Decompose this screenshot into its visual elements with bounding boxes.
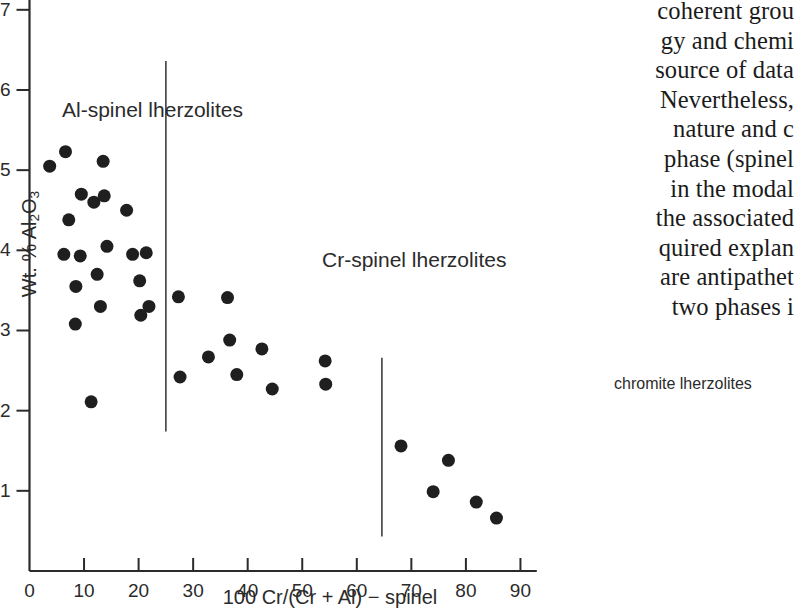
data-point <box>43 160 56 173</box>
data-point <box>91 268 104 281</box>
body-text-line: the associated <box>656 203 794 233</box>
data-point <box>266 383 279 396</box>
body-text-line: quired explan <box>659 233 794 263</box>
y-tick-label: 5 <box>0 160 11 179</box>
body-text-line: phase (spinel <box>664 144 794 174</box>
x-axis-title: 100 Cr/(Cr + Al) − spinel <box>0 586 660 609</box>
body-text-line: coherent grou <box>657 0 794 26</box>
data-point <box>427 485 440 498</box>
body-text-line: gy and chemi <box>661 26 794 56</box>
data-point <box>62 213 75 226</box>
data-point <box>94 300 107 313</box>
y-axis-title: Wt. % Al2O3 <box>18 159 42 329</box>
data-point <box>59 145 72 158</box>
data-point <box>230 368 243 381</box>
data-point <box>75 188 88 201</box>
body-text-line: are antipathet <box>660 262 794 292</box>
data-point <box>69 318 82 331</box>
y-tick-label: 1 <box>0 481 11 500</box>
data-point <box>202 350 215 363</box>
y-tick-label: 6 <box>0 80 11 99</box>
group-label-al-spinel: Al-spinel lherzolites <box>62 99 243 120</box>
data-point <box>140 246 153 259</box>
data-point <box>442 454 455 467</box>
data-point <box>98 189 111 202</box>
y-tick-label: 2 <box>0 401 11 420</box>
data-point <box>255 342 268 355</box>
group-label-chromite: chromite lherzolites <box>614 376 752 392</box>
data-point <box>133 274 146 287</box>
body-text-column: coherent grougy and chemisource of dataN… <box>432 0 794 336</box>
data-point <box>85 395 98 408</box>
data-point <box>74 249 87 262</box>
body-text-line: Nevertheless, <box>660 85 794 115</box>
data-point <box>69 280 82 293</box>
data-point <box>97 155 110 168</box>
data-point <box>100 240 113 253</box>
data-point <box>223 334 236 347</box>
body-text-line: two phases i <box>672 292 794 322</box>
data-point <box>394 439 407 452</box>
data-point <box>172 290 185 303</box>
body-text-line: in the modal <box>670 174 794 204</box>
body-text-line: source of data <box>655 55 794 85</box>
data-point <box>174 370 187 383</box>
data-point <box>470 496 483 509</box>
data-point <box>319 354 332 367</box>
data-point <box>126 248 139 261</box>
data-point <box>120 204 133 217</box>
y-tick-label: 4 <box>0 240 11 259</box>
data-point <box>142 300 155 313</box>
y-tick-label: 7 <box>0 0 11 19</box>
data-point <box>319 378 332 391</box>
divider-group <box>166 61 382 536</box>
data-point <box>57 248 70 261</box>
y-tick-label: 3 <box>0 320 11 339</box>
data-point <box>221 291 234 304</box>
body-text-line: nature and c <box>673 114 794 144</box>
data-point <box>490 512 503 525</box>
